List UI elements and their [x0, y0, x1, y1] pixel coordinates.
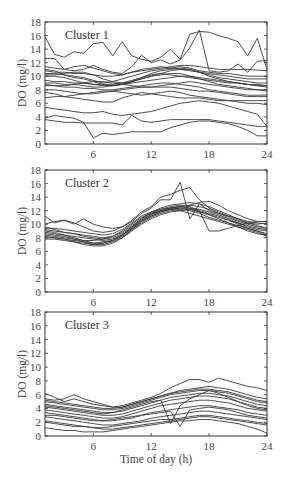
y-tick-label: 0 [36, 286, 42, 298]
cluster-1-ylabel: DO (mg/l) [16, 59, 29, 107]
series-line [45, 203, 267, 245]
y-tick-label: 2 [36, 272, 42, 284]
y-tick-label: 6 [36, 97, 42, 109]
x-tick-label: 6 [91, 440, 97, 452]
cluster-3-title: Cluster 3 [65, 318, 109, 332]
x-tick-label: 6 [91, 296, 97, 308]
series-lines [45, 378, 267, 433]
cluster-2-ylabel: DO (mg/l) [16, 207, 29, 255]
cluster-3-ylabel: DO (mg/l) [16, 350, 29, 398]
y-tick-label: 4 [36, 111, 42, 123]
y-tick-label: 8 [36, 84, 42, 96]
x-tick-label: 6 [91, 148, 97, 160]
series-lines [45, 182, 267, 246]
series-line [45, 87, 267, 97]
x-tick-label: 18 [204, 440, 216, 452]
x-tick-label: 24 [262, 440, 274, 452]
cluster-3-panel: Cluster 3 DO (mg/l) 02468101214161861218… [16, 306, 273, 452]
y-tick-label: 14 [30, 334, 42, 346]
y-tick-label: 10 [30, 70, 42, 82]
cluster-1-panel: Cluster 1 DO (mg/l) 02468101214161861218… [16, 16, 273, 160]
y-tick-label: 12 [30, 347, 41, 359]
y-tick-label: 0 [36, 138, 42, 150]
y-tick-label: 12 [30, 205, 41, 217]
y-tick-label: 16 [30, 30, 42, 42]
cluster-1-title: Cluster 1 [65, 28, 109, 42]
y-tick-label: 12 [30, 57, 41, 69]
y-tick-label: 14 [30, 191, 42, 203]
cluster-figure: Cluster 1 DO (mg/l) 02468101214161861218… [0, 0, 287, 484]
y-tick-label: 0 [36, 430, 42, 442]
y-tick-label: 18 [30, 306, 42, 318]
x-tick-label: 24 [262, 296, 274, 308]
y-tick-label: 2 [36, 416, 42, 428]
y-tick-label: 4 [36, 402, 42, 414]
series-line [45, 378, 267, 407]
x-axis-label: Time of day (h) [120, 453, 192, 466]
y-tick-label: 2 [36, 124, 42, 136]
x-tick-label: 24 [262, 148, 274, 160]
y-tick-label: 16 [30, 320, 42, 332]
x-tick-label: 12 [146, 296, 157, 308]
y-tick-label: 14 [30, 43, 42, 55]
series-lines [45, 30, 267, 138]
y-tick-label: 10 [30, 361, 42, 373]
x-tick-label: 12 [146, 148, 157, 160]
y-tick-label: 16 [30, 178, 42, 190]
x-tick-label: 18 [204, 148, 216, 160]
x-tick-label: 12 [146, 440, 157, 452]
cluster-2-title: Cluster 2 [65, 176, 109, 190]
y-tick-label: 18 [30, 16, 42, 28]
y-tick-label: 6 [36, 245, 42, 257]
y-tick-label: 8 [36, 232, 42, 244]
y-tick-label: 8 [36, 375, 42, 387]
series-line [45, 93, 267, 103]
y-tick-label: 4 [36, 259, 42, 271]
series-line [45, 116, 267, 138]
y-tick-label: 6 [36, 389, 42, 401]
y-tick-label: 18 [30, 164, 42, 176]
y-tick-label: 10 [30, 218, 42, 230]
x-tick-label: 18 [204, 296, 216, 308]
cluster-2-panel: Cluster 2 DO (mg/l) 02468101214161861218… [16, 164, 273, 308]
